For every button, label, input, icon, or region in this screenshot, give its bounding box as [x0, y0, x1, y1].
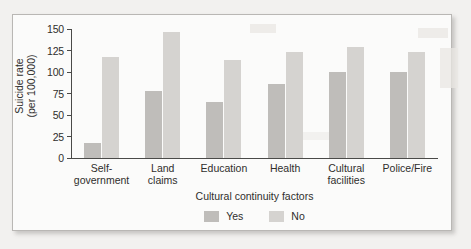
y-axis-title-line2: (per 100,000) — [25, 28, 37, 144]
x-axis-tick-label-line: claims — [132, 175, 193, 187]
figure-root: 0255075100125150 Suicide rate (per 100,0… — [0, 0, 471, 249]
x-axis-tick-label-line: Land — [132, 163, 193, 175]
x-axis-tick-label-line: Cultural — [316, 163, 377, 175]
bar-group — [145, 29, 180, 158]
x-axis-tick-label: Self-government — [71, 163, 132, 186]
x-axis-title: Cultural continuity factors — [71, 190, 438, 202]
bar-yes — [145, 91, 162, 158]
x-axis-tick-label: Education — [193, 163, 254, 175]
x-axis-tick-label: Culturalfacilities — [316, 163, 377, 186]
legend-label: No — [291, 210, 304, 222]
bar-group — [268, 29, 303, 158]
bar-yes — [329, 72, 346, 158]
bar-yes — [206, 102, 223, 158]
y-axis-title-line1: Suicide rate — [13, 28, 25, 144]
x-axis-tick-label-line: Police/Fire — [377, 163, 438, 175]
x-axis-tick-label-line: Self-government — [71, 163, 132, 186]
bar-no — [102, 57, 119, 158]
chart-legend: YesNo — [71, 210, 438, 222]
legend-item-yes[interactable]: Yes — [204, 210, 243, 222]
bar-no — [224, 60, 241, 158]
bar-yes — [268, 84, 285, 158]
x-axis-tick-label-line: Education — [193, 163, 254, 175]
y-axis-tick-label-text: 0 — [22, 152, 64, 164]
legend-swatch-icon — [204, 211, 219, 222]
bar-chart: 0255075100125150 Suicide rate (per 100,0… — [0, 0, 471, 249]
legend-label: Yes — [226, 210, 243, 222]
bar-yes — [84, 143, 101, 158]
x-axis-tick-label: Health — [255, 163, 316, 175]
bar-no — [408, 52, 425, 158]
bars-layer — [71, 29, 438, 158]
x-axis-tick-label-line: facilities — [316, 175, 377, 187]
bar-no — [347, 47, 364, 158]
x-axis-tick-label: Police/Fire — [377, 163, 438, 175]
y-axis-tick-label: 0 — [18, 152, 64, 164]
bar-no — [163, 32, 180, 158]
y-axis-title: Suicide rate (per 100,000) — [13, 28, 37, 144]
bar-group — [84, 29, 119, 158]
bar-no — [286, 52, 303, 158]
legend-swatch-icon — [269, 211, 284, 222]
x-axis-tick-label: Landclaims — [132, 163, 193, 186]
bar-yes — [390, 72, 407, 158]
legend-item-no[interactable]: No — [269, 210, 304, 222]
bar-group — [329, 29, 364, 158]
x-axis-line — [71, 158, 438, 159]
bar-group — [206, 29, 241, 158]
bar-group — [390, 29, 425, 158]
x-axis-tick-label-line: Health — [255, 163, 316, 175]
